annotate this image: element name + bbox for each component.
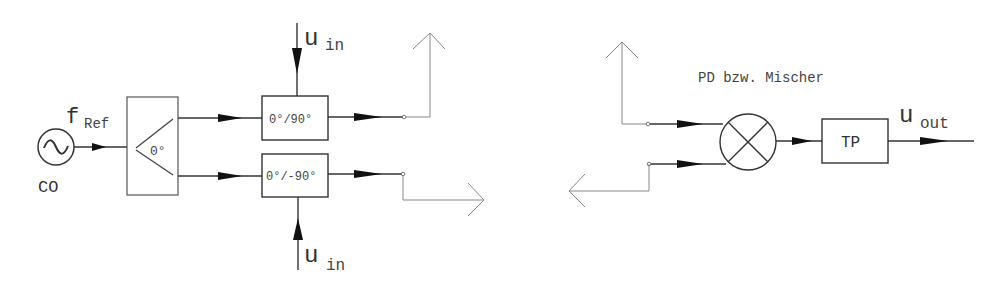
connector-line-bottom [403, 176, 484, 200]
oscillator-label: CO [38, 178, 58, 197]
phase-shifter-bottom: 0°/-90° [262, 154, 328, 197]
splitter-block: 0° [127, 97, 178, 195]
splitter-label: 0° [150, 144, 166, 159]
phase-shifter-top: 0°/90° [262, 96, 328, 140]
fref-subscript: Ref [84, 116, 109, 132]
arrow-icon [354, 170, 382, 178]
arrow-icon [92, 143, 106, 151]
mixer-block [720, 114, 776, 170]
uin-bottom-label: u [304, 242, 318, 269]
connector-line-top [406, 33, 430, 117]
phase-shifter-top-label: 0°/90° [269, 113, 312, 127]
arrow-icon [792, 137, 812, 145]
uout-subscript: out [920, 115, 949, 133]
arrow-icon [920, 137, 948, 145]
arrow-up-open-icon [413, 33, 445, 49]
arrow-up-icon [293, 218, 303, 240]
uin-bottom-subscript: in [326, 257, 345, 275]
connector-line-mixer-bottom [569, 164, 649, 191]
arrow-icon [354, 113, 382, 121]
arrow-icon [677, 160, 703, 168]
oscillator-co: CO [38, 129, 74, 197]
uout-label: u [899, 102, 913, 129]
uin-top-label: u [304, 25, 318, 52]
fref-label: f [66, 105, 79, 130]
mixer-title: PD bzw. Mischer [698, 70, 824, 86]
block-diagram: CO f Ref 0° 0°/90° u in 0°/-90° u in [0, 0, 1004, 290]
arrow-down-icon [292, 48, 302, 74]
arrow-icon [218, 114, 242, 122]
lowpass-label: TP [841, 134, 860, 152]
lowpass-block: TP [822, 119, 888, 163]
uin-top-subscript: in [325, 37, 344, 55]
arrow-icon [218, 172, 242, 180]
sine-wave-icon [44, 140, 68, 153]
arrow-icon [677, 120, 703, 128]
phase-shifter-bottom-label: 0°/-90° [266, 170, 316, 184]
